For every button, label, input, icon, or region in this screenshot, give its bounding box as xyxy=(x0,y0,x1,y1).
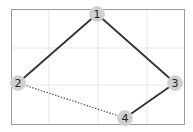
edge-2-4 xyxy=(18,83,125,118)
node-2[interactable]: 2 xyxy=(11,76,26,91)
edge-3-4 xyxy=(125,83,175,118)
edges xyxy=(18,14,175,118)
node-4[interactable]: 4 xyxy=(118,111,133,126)
node-label: 3 xyxy=(172,77,179,90)
node-label: 4 xyxy=(122,112,129,125)
node-1[interactable]: 1 xyxy=(90,7,105,22)
node-label: 1 xyxy=(94,8,101,21)
node-3[interactable]: 3 xyxy=(168,76,183,91)
graph-canvas: 1234 xyxy=(0,0,193,132)
node-label: 2 xyxy=(15,77,22,90)
